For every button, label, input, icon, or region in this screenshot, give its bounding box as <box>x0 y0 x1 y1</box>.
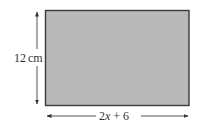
height-label: 12cm <box>14 51 43 65</box>
rectangle-diagram: 12cm 2x + 6 <box>0 0 203 122</box>
width-label: 2x + 6 <box>99 109 129 122</box>
shaded-rectangle <box>46 11 190 106</box>
